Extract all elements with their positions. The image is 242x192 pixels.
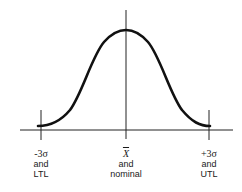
plus-3-sigma-text: +3σ [189,149,229,159]
ltl-text: LTL [21,169,61,179]
and-text: and [21,159,61,169]
and-text: and [189,159,229,169]
bell-curve [38,30,210,126]
nominal-text: nominal [106,169,146,179]
and-text: and [106,159,146,169]
label-xbar-nominal: X and nominal [106,149,146,179]
utl-text: UTL [189,169,229,179]
label-minus-3-sigma-ltl: -3σ and LTL [21,149,61,179]
label-plus-3-sigma-utl: +3σ and UTL [189,149,229,179]
minus-3-sigma-text: -3σ [21,149,61,159]
x-bar-text: X [106,149,146,159]
